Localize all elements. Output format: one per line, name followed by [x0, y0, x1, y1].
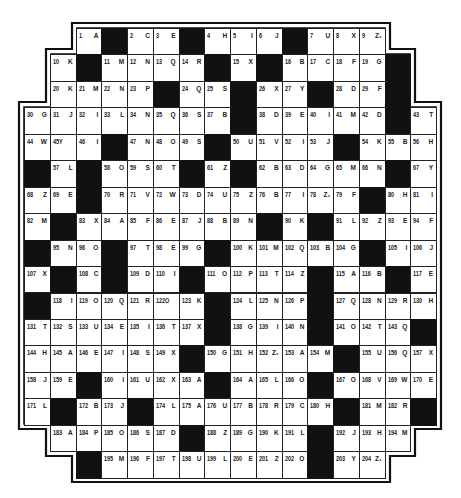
grid-cell-106[interactable]: 106J	[410, 240, 437, 267]
grid-cell-82[interactable]: 82M	[24, 213, 51, 240]
grid-cell-83[interactable]: 83X	[76, 213, 103, 240]
grid-cell-154[interactable]: 154M	[307, 345, 334, 372]
grid-cell-101[interactable]: 101M	[256, 240, 283, 267]
grid-cell-160[interactable]: 160I	[101, 372, 128, 399]
grid-cell-112[interactable]: 112P	[230, 266, 257, 293]
grid-cell-5[interactable]: 5I	[230, 28, 257, 55]
grid-cell-186[interactable]: 186S	[127, 425, 154, 452]
grid-cell-184[interactable]: 184P	[76, 425, 103, 452]
grid-cell-165[interactable]: 165L	[256, 372, 283, 399]
grid-cell-17[interactable]: 17C	[307, 54, 334, 81]
grid-cell-3[interactable]: 3E	[153, 28, 180, 55]
grid-cell-110[interactable]: 110I	[153, 266, 180, 293]
grid-cell-44[interactable]: 44W	[24, 134, 51, 161]
grid-cell-2[interactable]: 2C	[127, 28, 154, 55]
grid-cell-130[interactable]: 130H	[410, 293, 437, 320]
grid-cell-92[interactable]: 92Z	[359, 213, 386, 240]
grid-cell-14[interactable]: 14R	[179, 54, 206, 81]
grid-cell-52[interactable]: 52I	[282, 134, 309, 161]
grid-cell-62[interactable]: 62B	[256, 160, 283, 187]
grid-cell-63[interactable]: 63D	[282, 160, 309, 187]
grid-cell-25[interactable]: 25S	[204, 81, 231, 108]
grid-cell-159[interactable]: 159E	[50, 372, 77, 399]
grid-cell-54[interactable]: 54K	[359, 134, 386, 161]
grid-cell-49[interactable]: 49S	[179, 134, 206, 161]
grid-cell-74[interactable]: 74U	[204, 187, 231, 214]
grid-cell-166[interactable]: 166O	[282, 372, 309, 399]
grid-cell-87[interactable]: 87J	[179, 213, 206, 240]
grid-cell-197[interactable]: 197T	[153, 451, 180, 478]
grid-cell-103[interactable]: 103B	[307, 240, 334, 267]
grid-cell-182[interactable]: 182R	[385, 398, 412, 425]
grid-cell-12[interactable]: 12N	[127, 54, 154, 81]
grid-cell-19[interactable]: 19G	[359, 54, 386, 81]
grid-cell-65[interactable]: 65M	[333, 160, 360, 187]
grid-cell-71[interactable]: 71V	[127, 187, 154, 214]
grid-cell-135[interactable]: 135I	[127, 319, 154, 346]
grid-cell-146[interactable]: 146E	[76, 345, 103, 372]
grid-cell-163[interactable]: 163A	[179, 372, 206, 399]
grid-cell-125[interactable]: 125N	[256, 293, 283, 320]
grid-cell-94[interactable]: 94F	[410, 213, 437, 240]
grid-cell-9[interactable]: 9Z₁	[359, 28, 386, 55]
grid-cell-162[interactable]: 162X	[153, 372, 180, 399]
grid-cell-7[interactable]: 7U	[307, 28, 334, 55]
grid-cell-8[interactable]: 8X	[333, 28, 360, 55]
grid-cell-121[interactable]: 121R	[127, 293, 154, 320]
grid-cell-37[interactable]: 37B	[204, 107, 231, 134]
grid-cell-46[interactable]: 46I	[76, 134, 103, 161]
grid-cell-202[interactable]: 202O	[282, 451, 309, 478]
grid-cell-70[interactable]: 70R	[101, 187, 128, 214]
grid-cell-68[interactable]: 68Z	[24, 187, 51, 214]
grid-cell-45[interactable]: 45Y	[50, 134, 77, 161]
grid-cell-157[interactable]: 157X	[410, 345, 437, 372]
grid-cell-53[interactable]: 53J	[307, 134, 334, 161]
grid-cell-144[interactable]: 144H	[24, 345, 51, 372]
grid-cell-177[interactable]: 177B	[230, 398, 257, 425]
grid-cell-116[interactable]: 116B	[359, 266, 386, 293]
grid-cell-153[interactable]: 153A	[282, 345, 309, 372]
grid-cell-137[interactable]: 137X	[179, 319, 206, 346]
grid-cell-147[interactable]: 147I	[101, 345, 128, 372]
grid-cell-120[interactable]: 120Q	[101, 293, 128, 320]
grid-cell-96[interactable]: 96O	[76, 240, 103, 267]
grid-cell-164[interactable]: 164A	[230, 372, 257, 399]
grid-cell-23[interactable]: 23P	[127, 81, 154, 108]
grid-cell-88[interactable]: 88B	[204, 213, 231, 240]
grid-cell-193[interactable]: 193H	[359, 425, 386, 452]
grid-cell-204[interactable]: 204Z₁	[359, 451, 386, 478]
grid-cell-86[interactable]: 86E	[153, 213, 180, 240]
grid-cell-48[interactable]: 48O	[153, 134, 180, 161]
grid-cell-169[interactable]: 169W	[385, 372, 412, 399]
grid-cell-111[interactable]: 111O	[204, 266, 231, 293]
grid-cell-102[interactable]: 102Q	[282, 240, 309, 267]
grid-cell-203[interactable]: 203Y	[333, 451, 360, 478]
grid-cell-156[interactable]: 156Q	[385, 345, 412, 372]
grid-cell-61[interactable]: 61Z	[204, 160, 231, 187]
grid-cell-28[interactable]: 28D	[333, 81, 360, 108]
grid-cell-161[interactable]: 161U	[127, 372, 154, 399]
grid-cell-21[interactable]: 21M	[76, 81, 103, 108]
grid-cell-24[interactable]: 24Q	[179, 81, 206, 108]
grid-cell-172[interactable]: 172B	[76, 398, 103, 425]
grid-cell-113[interactable]: 113T	[256, 266, 283, 293]
grid-cell-181[interactable]: 181M	[359, 398, 386, 425]
grid-cell-189[interactable]: 189G	[230, 425, 257, 452]
grid-cell-145[interactable]: 145A	[50, 345, 77, 372]
grid-cell-15[interactable]: 15X	[230, 54, 257, 81]
grid-cell-35[interactable]: 35Q	[153, 107, 180, 134]
grid-cell-57[interactable]: 57L	[50, 160, 77, 187]
grid-cell-127[interactable]: 127Q	[333, 293, 360, 320]
grid-cell-105[interactable]: 105I	[385, 240, 412, 267]
grid-cell-30[interactable]: 30G	[24, 107, 51, 134]
grid-cell-131[interactable]: 131T	[24, 319, 51, 346]
grid-cell-78[interactable]: 78Z₁	[307, 187, 334, 214]
grid-cell-41[interactable]: 41M	[333, 107, 360, 134]
grid-cell-187[interactable]: 187D	[153, 425, 180, 452]
grid-cell-97[interactable]: 97T	[127, 240, 154, 267]
grid-cell-1[interactable]: 1A	[76, 28, 103, 55]
grid-cell-31[interactable]: 31J	[50, 107, 77, 134]
grid-cell-91[interactable]: 91L	[333, 213, 360, 240]
grid-cell-176[interactable]: 176U	[204, 398, 231, 425]
grid-cell-179[interactable]: 179C	[282, 398, 309, 425]
